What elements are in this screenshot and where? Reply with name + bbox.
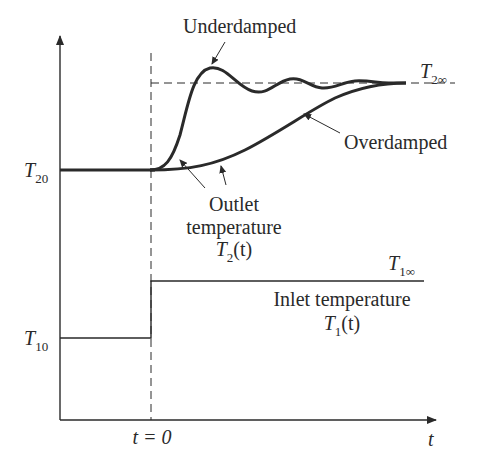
outlet-arg: (t) bbox=[233, 238, 252, 261]
underdamped-pointer bbox=[212, 42, 225, 64]
outlet-label-line1: Outlet bbox=[209, 193, 259, 215]
inlet-symbol: T1(t) bbox=[324, 312, 361, 339]
overdamped-label: Overdamped bbox=[344, 131, 447, 154]
underdamped-label: Underdamped bbox=[183, 15, 296, 38]
t10-label: T10 bbox=[24, 327, 48, 354]
outlet-symbol: T2(t) bbox=[216, 238, 253, 265]
inlet-label-line1: Inlet temperature bbox=[273, 288, 410, 311]
outlet-pointer-overdamped bbox=[221, 166, 226, 185]
overdamped-pointer bbox=[304, 114, 340, 133]
overdamped-curve bbox=[150, 83, 406, 170]
t20-label: T20 bbox=[24, 159, 48, 186]
outlet-label-line2: temperature bbox=[186, 216, 282, 239]
underdamped-curve bbox=[150, 68, 406, 170]
t0-label: t = 0 bbox=[132, 426, 171, 448]
step-response-diagram: Underdamped Overdamped T2∞ T20 T10 T1∞ O… bbox=[0, 0, 477, 476]
x-axis-label: t bbox=[428, 428, 434, 450]
t1inf-label: T1∞ bbox=[388, 252, 415, 279]
